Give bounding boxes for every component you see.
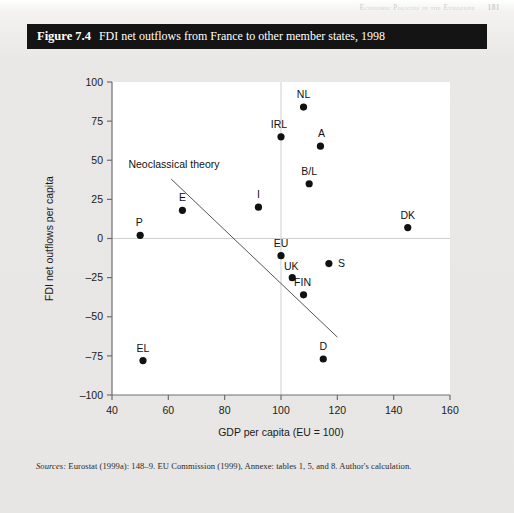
data-point-DK[interactable] bbox=[404, 224, 411, 231]
running-header-page-number: 181 bbox=[488, 3, 500, 12]
chart-container: 1007550250–25–50–75–10040608010012014016… bbox=[27, 49, 487, 454]
y-axis-title: FDI net outflows per capita bbox=[43, 176, 55, 301]
data-point-P[interactable] bbox=[137, 232, 144, 239]
sources-label: Sources: bbox=[36, 461, 66, 471]
data-point-I[interactable] bbox=[255, 204, 262, 211]
figure-number: Figure 7.4 bbox=[37, 29, 91, 44]
x-tick-label-60: 60 bbox=[162, 404, 174, 416]
data-point-NL[interactable] bbox=[300, 103, 307, 110]
y-tick-label-75: 75 bbox=[91, 115, 103, 127]
data-point-IRL[interactable] bbox=[277, 133, 284, 140]
y-tick-label--25: –25 bbox=[85, 271, 103, 283]
sources-text: Eurostat (1999a): 148–9. EU Commission (… bbox=[66, 461, 411, 471]
data-point-A[interactable] bbox=[317, 143, 324, 150]
y-tick-label-25: 25 bbox=[91, 193, 103, 205]
running-header-text: Economic Policies in the Eurozone bbox=[360, 3, 476, 12]
data-point-label-DK: DK bbox=[400, 209, 415, 221]
figure-title-banner: Figure 7.4 FDI net outflows from France … bbox=[27, 24, 487, 49]
sources-note: Sources: Eurostat (1999a): 148–9. EU Com… bbox=[36, 461, 496, 471]
data-point-label-UK: UK bbox=[284, 260, 299, 272]
data-point-FIN[interactable] bbox=[300, 291, 307, 298]
x-tick-label-160: 160 bbox=[441, 404, 459, 416]
x-tick-label-100: 100 bbox=[272, 404, 290, 416]
y-tick-label-100: 100 bbox=[85, 76, 103, 88]
data-point-label-D: D bbox=[319, 340, 327, 352]
x-axis-title: GDP per capita (EU = 100) bbox=[218, 426, 344, 438]
data-point-S[interactable] bbox=[325, 260, 332, 267]
y-tick-label--50: –50 bbox=[85, 310, 103, 322]
figure-title: FDI net outflows from France to other me… bbox=[99, 29, 385, 44]
page-background: Economic Policies in the Eurozone 181 Fi… bbox=[0, 0, 514, 513]
data-point-label-A: A bbox=[318, 127, 325, 139]
data-point-label-FIN: FIN bbox=[294, 276, 311, 288]
scatter-chart: 1007550250–25–50–75–10040608010012014016… bbox=[27, 49, 487, 454]
x-tick-label-80: 80 bbox=[219, 404, 231, 416]
data-point-label-S: S bbox=[338, 257, 345, 269]
data-point-label-P: P bbox=[136, 216, 143, 228]
y-tick-label--100: –100 bbox=[80, 389, 104, 401]
x-tick-label-120: 120 bbox=[329, 404, 347, 416]
data-point-label-EL: EL bbox=[137, 342, 150, 354]
y-tick-label-0: 0 bbox=[97, 232, 103, 244]
data-point-label-B-L: B/L bbox=[301, 165, 317, 177]
data-point-D[interactable] bbox=[320, 355, 327, 362]
data-point-EL[interactable] bbox=[139, 357, 146, 364]
data-point-label-IRL: IRL bbox=[271, 118, 288, 130]
data-point-label-EU: EU bbox=[274, 237, 289, 249]
x-tick-label-40: 40 bbox=[106, 404, 118, 416]
running-header: Economic Policies in the Eurozone 181 bbox=[360, 3, 500, 12]
x-tick-label-140: 140 bbox=[385, 404, 403, 416]
data-point-label-E: E bbox=[179, 191, 186, 203]
y-tick-label-50: 50 bbox=[91, 154, 103, 166]
y-tick-label--75: –75 bbox=[85, 350, 103, 362]
data-point-EU[interactable] bbox=[277, 252, 284, 259]
data-point-B-L[interactable] bbox=[306, 180, 313, 187]
data-point-label-I: I bbox=[257, 188, 260, 200]
annotation-neoclassical-theory: Neoclassical theory bbox=[128, 158, 220, 170]
data-point-label-NL: NL bbox=[297, 88, 311, 100]
data-point-E[interactable] bbox=[179, 207, 186, 214]
